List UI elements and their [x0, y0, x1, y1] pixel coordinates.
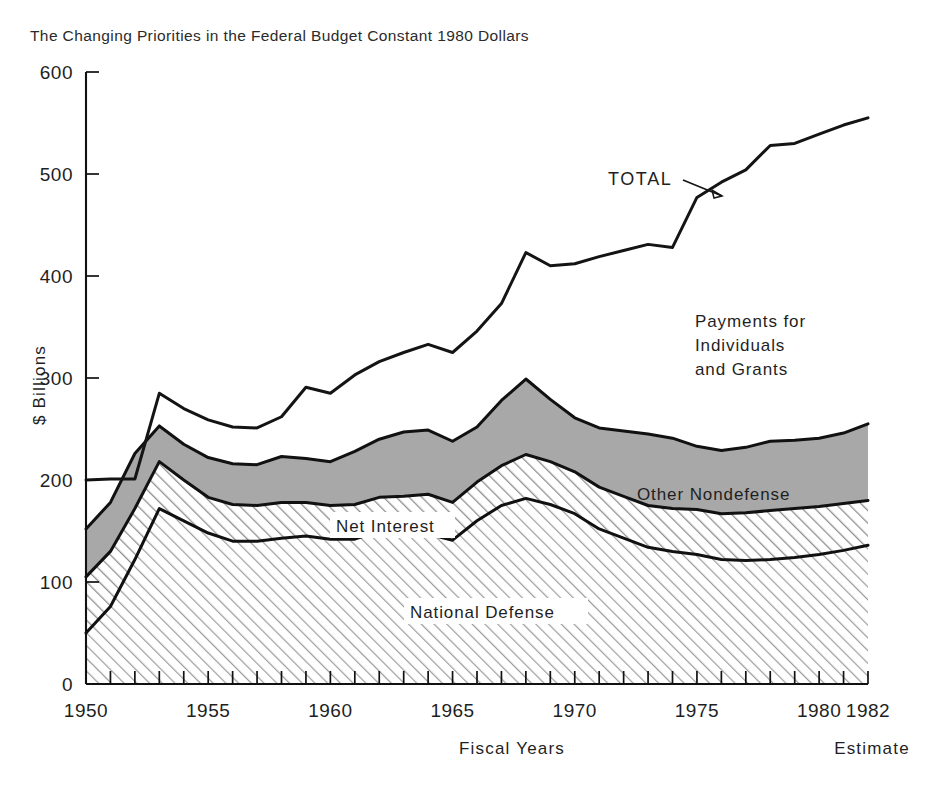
- annotation-payments-line-2: Individuals: [695, 336, 785, 355]
- budget-area-chart: 0100200300400500600 19501955196019651970…: [0, 0, 934, 797]
- annotation-payments-line-1: Payments for: [695, 312, 806, 331]
- annotation-net-interest: Net Interest: [336, 517, 435, 536]
- y-tick-label: 200: [40, 470, 73, 491]
- annotation-payments-line-3: and Grants: [695, 360, 788, 379]
- x-axis-title: Fiscal Years: [459, 739, 565, 758]
- y-tick-label: 100: [40, 572, 73, 593]
- y-tick-label: 0: [62, 674, 73, 695]
- x-tick-label: 1970: [553, 700, 597, 721]
- estimate-note: Estimate: [834, 739, 910, 758]
- x-tick-label: 1950: [64, 700, 108, 721]
- x-tick-label: 1975: [675, 700, 719, 721]
- x-tick-labels: 19501955196019651970197519801982: [64, 700, 890, 721]
- y-tick-label: 500: [40, 164, 73, 185]
- chart-canvas: The Changing Priorities in the Federal B…: [0, 0, 934, 797]
- y-tick-label: 400: [40, 266, 73, 287]
- y-axis-title: $ Billions: [30, 345, 49, 425]
- x-tick-label: 1960: [308, 700, 352, 721]
- annotation-total: TOTAL: [608, 169, 672, 189]
- annotation-national-defense: National Defense: [410, 603, 555, 622]
- x-tick-label: 1980: [797, 700, 841, 721]
- x-tick-label: 1982: [846, 700, 890, 721]
- annotation-other-nondefense: Other Nondefense: [637, 485, 790, 504]
- x-tick-label: 1955: [186, 700, 230, 721]
- x-tick-label: 1965: [430, 700, 474, 721]
- y-tick-label: 600: [40, 62, 73, 83]
